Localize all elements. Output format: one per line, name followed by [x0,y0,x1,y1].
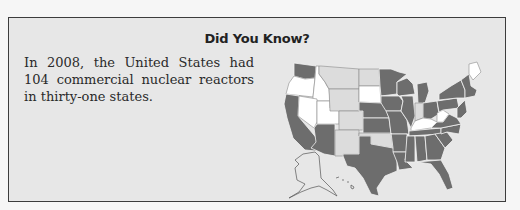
state-wyoming [329,89,359,111]
state-new-jersey-maryland [457,100,467,118]
state-florida [417,160,453,190]
us-reactor-map [281,56,491,208]
state-south-dakota [359,86,381,103]
state-michigan [417,82,429,103]
state-wisconsin [397,78,415,96]
state-kansas [363,118,391,133]
state-colorado [339,111,363,130]
state-maine [469,62,481,80]
state-arkansas [391,133,407,152]
callout-body: In 2008, the United States had 104 comme… [24,54,254,105]
did-you-know-callout: Did You Know? In 2008, the United States… [8,17,506,202]
state-hawaii [336,177,354,189]
state-new-york [439,80,465,100]
state-ohio [423,101,439,119]
state-alaska [289,152,337,198]
callout-title: Did You Know? [9,31,505,46]
state-oregon [286,76,315,97]
state-mississippi [405,136,415,162]
state-new-mexico [335,130,359,156]
state-iowa [381,96,403,111]
state-north-dakota [359,69,380,86]
us-map-graphic [281,56,491,208]
